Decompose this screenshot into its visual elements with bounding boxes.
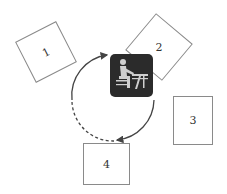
station-box-3: 3: [173, 96, 213, 145]
arc-solid-right: [117, 100, 154, 140]
arc-dashed-bottom-left: [72, 102, 114, 141]
station-label: 4: [103, 158, 110, 171]
station-box-4: 4: [83, 143, 130, 185]
station-label: 2: [156, 41, 163, 54]
station-label: 1: [40, 45, 52, 60]
diagram-canvas: 1 2 3 4: [0, 0, 227, 194]
station-label: 3: [190, 114, 197, 127]
person-at-desk-icon: [110, 54, 153, 97]
